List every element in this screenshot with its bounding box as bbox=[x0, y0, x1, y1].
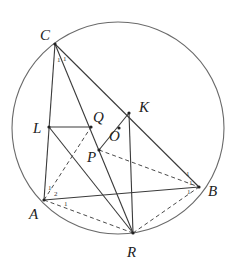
angle-mark: 1 bbox=[57, 56, 61, 64]
point-B bbox=[197, 185, 200, 188]
point-R bbox=[131, 231, 134, 234]
segment-KR bbox=[129, 113, 133, 233]
angle-mark: 1 bbox=[63, 55, 67, 63]
angle-mark: 1 bbox=[186, 170, 190, 178]
point-Q bbox=[89, 125, 92, 128]
label-A: A bbox=[28, 206, 39, 222]
segment-PB bbox=[99, 150, 199, 187]
label-R: R bbox=[126, 244, 136, 260]
point-L bbox=[47, 125, 50, 128]
segment-AB bbox=[44, 187, 199, 200]
label-K: K bbox=[138, 99, 150, 115]
angle-mark: 1 bbox=[64, 200, 68, 208]
segment-CA bbox=[44, 44, 55, 200]
geometry-diagram: CLQKOPABR 11121111 bbox=[0, 0, 235, 264]
angle-mark: 1 bbox=[189, 179, 193, 187]
angle-mark: 1 bbox=[48, 184, 52, 192]
label-L: L bbox=[32, 120, 41, 136]
point-K bbox=[127, 111, 130, 114]
point-P bbox=[97, 148, 100, 151]
angle-marks: 11121111 bbox=[48, 55, 193, 208]
point-A bbox=[42, 198, 45, 201]
angle-mark: 1 bbox=[187, 188, 191, 196]
angle-mark: 2 bbox=[54, 190, 58, 198]
label-O: O bbox=[109, 128, 120, 144]
label-P: P bbox=[86, 149, 96, 165]
label-Q: Q bbox=[93, 109, 104, 125]
label-B: B bbox=[208, 183, 217, 199]
point-C bbox=[53, 42, 56, 45]
label-C: C bbox=[40, 27, 51, 43]
